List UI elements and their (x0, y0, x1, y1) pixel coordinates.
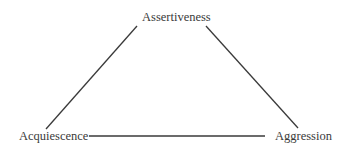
node-aggression: Aggression (275, 130, 332, 143)
triangle-diagram: Assertiveness Acquiescence Aggression (0, 0, 347, 152)
node-assertiveness: Assertiveness (142, 11, 211, 24)
edge-assertiveness-aggression (206, 26, 298, 128)
edge-acquiescence-assertiveness (46, 26, 137, 129)
node-acquiescence: Acquiescence (19, 130, 88, 143)
